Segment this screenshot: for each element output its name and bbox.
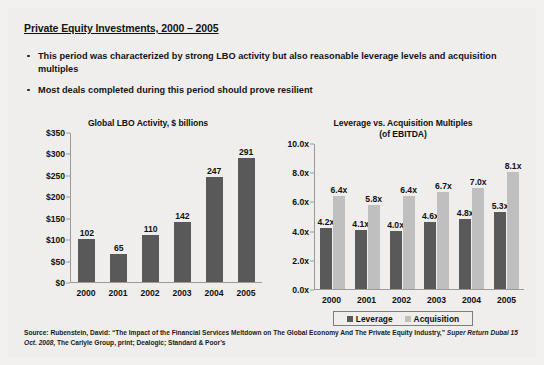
bar: 102 xyxy=(78,239,95,282)
chart-title: Leverage vs. Acquisition Multiples xyxy=(280,118,526,129)
y-axis: $0$50$100$150$200$250$300$350 xyxy=(32,133,70,283)
bar-group: 110 xyxy=(135,133,167,282)
bar: 247 xyxy=(206,177,223,282)
bar-value-label: 65 xyxy=(114,243,124,253)
plot-area: 4.2x6.4x4.1x5.8x4.0x6.4x4.6x6.7x4.8x7.0x… xyxy=(314,144,524,290)
bar: 8.1x xyxy=(507,172,519,289)
slide-canvas: Private Equity Investments, 2000 – 2005 … xyxy=(0,0,544,365)
bar-value-label: 8.1x xyxy=(505,161,522,171)
bar-groups: 10265110142247291 xyxy=(71,133,262,282)
bar: 65 xyxy=(110,254,127,282)
legend-label: Leverage xyxy=(356,314,393,324)
y-axis-tick-label: 6.0x xyxy=(292,197,309,207)
bar-value-label: 5.8x xyxy=(365,194,382,204)
x-axis-tick-label: 2001 xyxy=(102,288,134,298)
bar-value-label: 6.4x xyxy=(400,185,417,195)
bar: 4.1x xyxy=(355,230,367,289)
x-axis-tick-label: 2005 xyxy=(230,288,262,298)
bullet-dot-icon xyxy=(27,89,30,92)
bar-value-label: 102 xyxy=(80,228,94,238)
y-axis-tick-label: $50 xyxy=(51,257,65,267)
y-axis-tick-label: $150 xyxy=(46,214,65,224)
y-axis-tick-label: 0.0x xyxy=(292,285,309,295)
bar: 4.8x xyxy=(459,219,471,289)
y-axis-tick-label: 10.0x xyxy=(287,139,309,149)
bar-value-label: 110 xyxy=(144,224,158,234)
bar-group: 4.8x7.0x xyxy=(454,144,489,289)
bar-group: 65 xyxy=(103,133,135,282)
y-axis-tick-label: $350 xyxy=(46,128,65,138)
bar-value-label: 6.4x xyxy=(331,185,348,195)
source-line-2-pre: Industry,” xyxy=(414,329,446,336)
list-item: Most deals completed during this period … xyxy=(26,84,522,97)
page-title: Private Equity Investments, 2000 – 2005 xyxy=(24,22,219,34)
bar: 6.4x xyxy=(333,196,345,289)
y-axis-tick-label: $300 xyxy=(46,149,65,159)
bar-value-label: 247 xyxy=(207,166,221,176)
x-axis-tick-label: 2002 xyxy=(384,295,419,305)
x-axis-tick-label: 2000 xyxy=(314,295,349,305)
bullet-list: This period was characterized by strong … xyxy=(26,50,522,106)
chart-leverage-vs-acquisition: Leverage vs. Acquisition Multiples (of E… xyxy=(280,118,526,308)
chart-title: Global LBO Activity, $ billions xyxy=(32,118,264,129)
y-axis: 0.0x2.0x4.0x6.0x8.0x10.0x xyxy=(280,144,314,290)
bar-value-label: 6.7x xyxy=(435,181,452,191)
x-axis-tick-label: 2000 xyxy=(70,288,102,298)
bar-value-label: 4.8x xyxy=(457,208,474,218)
bar-group: 247 xyxy=(198,133,230,282)
bullet-text: Most deals completed during this period … xyxy=(38,85,313,95)
y-axis-tick-label: 4.0x xyxy=(292,227,309,237)
bar: 6.4x xyxy=(403,196,415,289)
bar: 4.6x xyxy=(424,222,436,289)
y-axis-tick-label: $0 xyxy=(55,278,65,288)
x-axis-tick-label: 2002 xyxy=(134,288,166,298)
bar: 110 xyxy=(142,235,159,282)
bar: 5.3x xyxy=(494,212,506,289)
legend-swatch-icon xyxy=(347,316,353,322)
bar-value-label: 4.0x xyxy=(387,220,404,230)
y-axis-tick-label: 2.0x xyxy=(292,256,309,266)
bar-group: 142 xyxy=(166,133,198,282)
bar: 4.0x xyxy=(390,231,402,289)
source-note: Source: Rubenstein, David: “The Impact o… xyxy=(24,328,524,347)
y-axis-tick-label: 8.0x xyxy=(292,168,309,178)
bar: 7.0x xyxy=(472,188,484,290)
x-axis: 200020012002200320042005 xyxy=(314,295,524,305)
legend-item-acquisition: Acquisition xyxy=(405,314,460,324)
y-axis-tick-label: $250 xyxy=(46,171,65,181)
bar-value-label: 291 xyxy=(239,147,253,157)
bar-group: 291 xyxy=(230,133,262,282)
bar-value-label: 4.6x xyxy=(422,211,439,221)
bar-group: 4.1x5.8x xyxy=(350,144,385,289)
y-axis-tick-label: $100 xyxy=(46,235,65,245)
bar: 291 xyxy=(238,158,255,282)
bar: 6.7x xyxy=(437,192,449,289)
legend-swatch-icon xyxy=(405,316,411,322)
bar-group: 4.6x6.7x xyxy=(419,144,454,289)
x-axis-tick-label: 2004 xyxy=(454,295,489,305)
bar-group: 5.3x8.1x xyxy=(489,144,524,289)
bar-value-label: 7.0x xyxy=(470,177,487,187)
x-axis-tick-label: 2004 xyxy=(198,288,230,298)
bar: 5.8x xyxy=(368,205,380,289)
x-axis: 200020012002200320042005 xyxy=(70,288,262,298)
legend-label: Acquisition xyxy=(414,314,460,324)
bar-value-label: 4.2x xyxy=(318,217,335,227)
x-axis-tick-label: 2003 xyxy=(166,288,198,298)
bar-value-label: 5.3x xyxy=(492,201,509,211)
bar-groups: 4.2x6.4x4.1x5.8x4.0x6.4x4.6x6.7x4.8x7.0x… xyxy=(315,144,524,289)
bullet-dot-icon xyxy=(27,55,30,58)
slide-body: Private Equity Investments, 2000 – 2005 … xyxy=(8,8,536,357)
bar: 142 xyxy=(174,222,191,282)
plot-area: 10265110142247291 xyxy=(70,133,262,283)
x-axis-tick-label: 2003 xyxy=(419,295,454,305)
x-axis-tick-label: 2005 xyxy=(489,295,524,305)
chart-subtitle: (of EBITDA) xyxy=(280,129,526,140)
chart-legend: Leverage Acquisition xyxy=(333,311,473,326)
bar-group: 4.2x6.4x xyxy=(315,144,350,289)
chart-global-lbo-activity: Global LBO Activity, $ billions $0$50$10… xyxy=(32,118,264,308)
bar-value-label: 142 xyxy=(175,211,189,221)
bar-value-label: 4.1x xyxy=(352,219,369,229)
source-line-1: Source: Rubenstein, David: “The Impact o… xyxy=(24,329,412,336)
source-line-2-post: , The Carlyle Group, print; Dealogic; St… xyxy=(53,339,225,346)
